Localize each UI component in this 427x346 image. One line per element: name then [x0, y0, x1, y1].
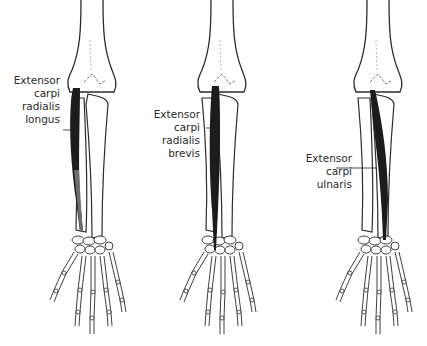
forearm-left: [50, 0, 126, 334]
label-line: carpi: [148, 121, 200, 134]
label-line: carpi: [8, 87, 60, 100]
label-extensor-carpi-ulnaris: Extensor carpi ulnaris: [300, 152, 352, 191]
label-line: Extensor: [148, 108, 200, 121]
forearm-middle: [180, 0, 256, 334]
label-line: radialis: [148, 134, 200, 147]
label-line: ulnaris: [300, 178, 352, 191]
label-extensor-carpi-radialis-longus: Extensor carpi radialis longus: [8, 74, 60, 126]
forearm-diagram: [0, 0, 427, 346]
label-line: carpi: [300, 165, 352, 178]
label-extensor-carpi-radialis-brevis: Extensor carpi radialis brevis: [148, 108, 200, 160]
label-line: Extensor: [300, 152, 352, 165]
label-line: Extensor: [8, 74, 60, 87]
label-line: brevis: [148, 147, 200, 160]
label-line: radialis: [8, 100, 60, 113]
label-line: longus: [8, 113, 60, 126]
